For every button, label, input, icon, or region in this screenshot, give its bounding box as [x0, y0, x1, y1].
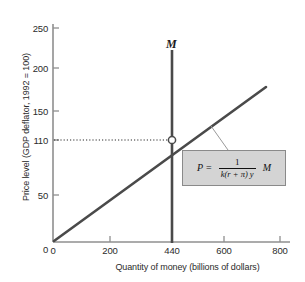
callout-leader-line — [211, 126, 228, 150]
equation-lhs: P — [197, 163, 203, 173]
y-axis-ticks — [53, 28, 59, 195]
y-axis-title: Price level (GDP deflator, 1992 = 100) — [21, 37, 31, 217]
x-tick-label-0: 0 — [38, 245, 68, 256]
x-axis-ticks — [110, 236, 280, 242]
equation-denominator: k(r + π) y — [219, 169, 256, 179]
equilibrium-marker — [168, 136, 175, 143]
equation-numerator: 1 — [232, 158, 243, 168]
x-tick-label-200: 200 — [95, 245, 125, 256]
x-tick-label-600: 600 — [209, 245, 239, 256]
x-tick-label-440: 440 — [157, 245, 187, 256]
x-tick-label-800: 800 — [265, 245, 295, 256]
y-tick-label-250: 250 — [22, 23, 48, 34]
equation-equals-sign: = — [206, 163, 212, 173]
equation-rhs: M — [263, 163, 271, 173]
equation-fraction: 1 k(r + π) y — [219, 158, 256, 179]
money-supply-label: M — [166, 37, 177, 52]
chart-figure: 250 200 150 110 50 0 0 200 440 600 800 P… — [0, 0, 305, 282]
x-axis-title: Quantity of money (billions of dollars) — [75, 262, 300, 272]
quantity-theory-equation-box: P = 1 k(r + π) y M — [182, 150, 286, 186]
equation-expression: P = 1 k(r + π) y M — [197, 158, 271, 179]
